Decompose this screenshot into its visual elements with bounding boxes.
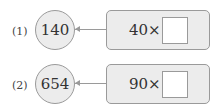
expression-box: 40× <box>106 10 210 50</box>
problem-2: (2) 654 90× <box>0 63 221 109</box>
answer-blank[interactable] <box>162 17 188 44</box>
answer-blank[interactable] <box>162 71 188 98</box>
result-circle: 140 <box>35 10 75 50</box>
problem-number: (2) <box>12 79 28 92</box>
expression-text: 90× <box>129 75 161 93</box>
expression-text: 40× <box>129 21 161 39</box>
result-circle: 654 <box>35 64 75 104</box>
expression-box: 90× <box>106 64 210 104</box>
problem-1: (1) 140 40× <box>0 9 221 55</box>
arrow-left-icon <box>75 83 106 84</box>
problem-number: (1) <box>12 25 28 38</box>
arrow-left-icon <box>75 29 106 30</box>
